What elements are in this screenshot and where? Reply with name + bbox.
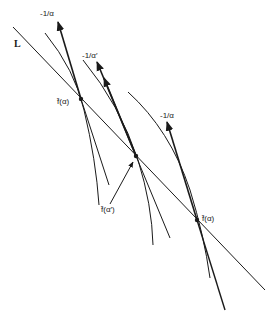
arrow-2b: [104, 78, 136, 156]
curve-2: [83, 60, 153, 245]
label-point-2: f̂(α′): [101, 206, 115, 214]
label-arrow-1: -1/α: [40, 10, 54, 18]
point-1: [79, 97, 83, 101]
label-point-3: f̂(α): [202, 215, 214, 223]
tangent-2: [136, 156, 170, 238]
label-line-L: L: [14, 39, 21, 49]
arrow-3: [167, 122, 197, 220]
line-L: [13, 27, 265, 290]
point-3: [195, 218, 199, 222]
diagram-canvas: [0, 0, 278, 324]
label-arrow-2: -1/α′: [82, 52, 97, 60]
label-arrow-3: -1/α: [160, 112, 174, 120]
point-2: [134, 154, 138, 158]
arrow-1: [58, 22, 81, 99]
pointer-alpha-prime: [110, 162, 133, 204]
label-point-1: f̂(α): [57, 98, 69, 106]
